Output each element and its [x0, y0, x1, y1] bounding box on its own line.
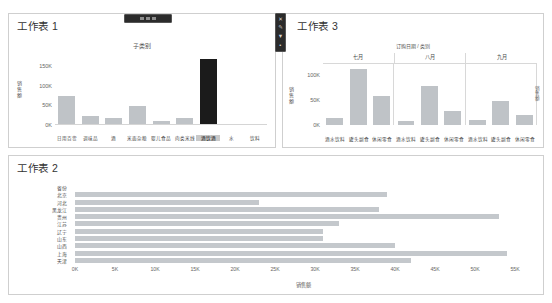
worksheet-1-x-label[interactable]: 米面杂粮	[126, 135, 150, 141]
worksheet-2-bar[interactable]	[75, 236, 323, 241]
worksheet-3-panel-header[interactable]: 七月	[323, 53, 395, 63]
worksheet-3-bar[interactable]	[398, 121, 415, 125]
worksheet-1-bar-slot[interactable]	[173, 56, 197, 125]
worksheet-3-bar[interactable]	[516, 115, 533, 125]
worksheet-3-bar-slot[interactable]	[370, 63, 393, 125]
worksheet-3-bar-slot[interactable]	[513, 63, 536, 125]
worksheet-1-x-label[interactable]: 肉类米线	[173, 135, 197, 141]
worksheet-2-bar[interactable]	[75, 192, 387, 197]
worksheet-2-bar[interactable]	[75, 221, 339, 226]
filter-icon[interactable]: ▼	[277, 33, 284, 40]
worksheet-2-bar[interactable]	[75, 251, 507, 256]
worksheet-2-bar[interactable]	[75, 214, 499, 219]
worksheet-2-category-label[interactable]: 黑龙江	[9, 206, 71, 213]
worksheet-2-bar-row[interactable]	[75, 213, 531, 220]
worksheet-3-panel-header[interactable]: 九月	[466, 53, 537, 63]
worksheet-1-x-label[interactable]: 调味品	[79, 135, 103, 141]
worksheet-3-x-label[interactable]: 酒水饮料	[466, 136, 490, 142]
worksheet-1-x-labels[interactable]: 日用百货调味品酒米面杂粮婴儿食品肉类米线酒饮酒水饮料	[55, 135, 267, 141]
worksheet-2-category-label[interactable]: 天津	[9, 257, 71, 264]
worksheet-1-bar-slot[interactable]	[126, 56, 150, 125]
worksheet-3-bar[interactable]	[469, 120, 486, 125]
worksheet-1-x-label[interactable]: 婴儿食品	[149, 135, 173, 141]
worksheet-1-bar-slot[interactable]	[79, 56, 103, 125]
worksheet-3-bar[interactable]	[421, 86, 438, 125]
worksheet-2-category-label[interactable]: 河北	[9, 199, 71, 206]
worksheet-1-x-label[interactable]: 饮料	[244, 135, 268, 141]
worksheet-3-plot[interactable]: 0K50K100K	[323, 63, 537, 125]
worksheet-3[interactable]: 工作表 3 订购日期 / 类别 销售额 七月八月九月 0K50K100K 酒水饮…	[282, 13, 544, 148]
worksheet-3-x-labels[interactable]: 酒水饮料罐头副食休闲零食酒水饮料罐头副食休闲零食酒水饮料罐头副食休闲零食	[323, 136, 537, 142]
worksheet-2-bar[interactable]	[75, 207, 379, 212]
worksheet-3-bar-slot[interactable]	[323, 63, 346, 125]
more-icon[interactable]: ▪	[277, 42, 284, 49]
worksheet-3-x-label[interactable]: 休闲零食	[442, 136, 466, 142]
worksheet-3-panel[interactable]	[323, 63, 394, 125]
worksheet-2-bar-row[interactable]	[75, 184, 531, 191]
worksheet-3-bar-slot[interactable]	[466, 63, 489, 125]
worksheet-3-bar-slot[interactable]	[394, 63, 417, 125]
worksheet-1-x-label[interactable]: 酒	[102, 135, 126, 141]
worksheet-2-category-label[interactable]: 贵州	[9, 213, 71, 220]
worksheet-2-category-label[interactable]: 江苏	[9, 220, 71, 227]
worksheet-2-plot[interactable]	[75, 184, 531, 264]
worksheet-2-bar-row[interactable]	[75, 257, 531, 264]
edit-icon[interactable]: ✎	[277, 25, 284, 32]
worksheet-2-bar-row[interactable]	[75, 199, 531, 206]
worksheet-3-x-label[interactable]: 罐头副食	[418, 136, 442, 142]
toolbar-handle-icon[interactable]	[146, 17, 150, 20]
worksheet-1-bar-slot[interactable]	[149, 56, 173, 125]
worksheet-1-bar[interactable]	[58, 96, 75, 125]
worksheet-3-bar-slot[interactable]	[441, 63, 464, 125]
worksheet-3-bar[interactable]	[326, 118, 343, 125]
worksheet-1-x-label[interactable]: 酒饮酒	[196, 135, 220, 141]
worksheet-2-bar[interactable]	[75, 229, 323, 234]
worksheet-3-panel-header[interactable]: 八月	[395, 53, 467, 63]
worksheet-2[interactable]: 工作表 2 省份北京河北黑龙江贵州江苏辽宁山东山西上海天津 0K5K10K15K…	[8, 155, 544, 295]
worksheet-1-plot[interactable]: 0K50K100K150K	[55, 56, 267, 125]
worksheet-2-bar[interactable]	[75, 200, 259, 205]
worksheet-2-bar-row[interactable]	[75, 191, 531, 198]
floating-toolbar-top[interactable]	[124, 14, 172, 23]
worksheet-3-bar-slot[interactable]	[489, 63, 512, 125]
worksheet-2-bar-row[interactable]	[75, 206, 531, 213]
worksheet-3-bar[interactable]	[373, 96, 390, 125]
floating-toolbar-right[interactable]: ✕✎▼▪	[275, 13, 286, 52]
worksheet-2-category-label[interactable]: 山西	[9, 242, 71, 249]
worksheet-3-x-label[interactable]: 罐头副食	[347, 136, 371, 142]
worksheet-2-category-label[interactable]: 山东	[9, 235, 71, 242]
worksheet-3-x-label[interactable]: 酒水饮料	[323, 136, 347, 142]
worksheet-2-bar-row[interactable]	[75, 228, 531, 235]
worksheet-3-x-label[interactable]: 酒水饮料	[394, 136, 418, 142]
worksheet-1-x-label[interactable]: 日用百货	[55, 135, 79, 141]
toolbar-handle-icon[interactable]	[140, 17, 144, 20]
worksheet-3-bar[interactable]	[492, 101, 509, 125]
worksheet-1-bar-slot[interactable]	[196, 56, 220, 125]
close-icon[interactable]: ✕	[277, 16, 284, 23]
worksheet-1-bar-slot[interactable]	[244, 56, 268, 125]
toolbar-handle-icon[interactable]	[152, 17, 156, 20]
worksheet-1-bars[interactable]	[55, 56, 267, 125]
worksheet-1-x-label[interactable]: 水	[220, 135, 244, 141]
worksheet-2-category-label[interactable]: 上海	[9, 249, 71, 256]
worksheet-2-category-label[interactable]: 北京	[9, 191, 71, 198]
worksheet-3-x-label[interactable]: 休闲零食	[513, 136, 537, 142]
worksheet-1-bar-slot[interactable]	[102, 56, 126, 125]
worksheet-3-bar-slot[interactable]	[346, 63, 369, 125]
worksheet-2-bar-row[interactable]	[75, 235, 531, 242]
worksheet-1[interactable]: 工作表 1 子类别 销售额 0K50K100K150K 日用百货调味品酒米面杂粮…	[8, 13, 276, 148]
worksheet-2-bar-row[interactable]	[75, 242, 531, 249]
worksheet-3-bar-slot[interactable]	[418, 63, 441, 125]
worksheet-3-bar[interactable]	[444, 111, 461, 125]
worksheet-2-bar-row[interactable]	[75, 220, 531, 227]
worksheet-2-bar[interactable]	[75, 258, 411, 263]
worksheet-2-bar-row[interactable]	[75, 249, 531, 256]
worksheet-1-bar[interactable]	[129, 106, 146, 125]
worksheet-1-bar-slot[interactable]	[55, 56, 79, 125]
worksheet-2-category-label[interactable]: 辽宁	[9, 228, 71, 235]
worksheet-3-bar[interactable]	[350, 69, 367, 125]
worksheet-2-category-label[interactable]: 省份	[9, 184, 71, 191]
worksheet-3-x-label[interactable]: 休闲零食	[371, 136, 395, 142]
worksheet-3-x-label[interactable]: 罐头副食	[489, 136, 513, 142]
worksheet-1-bar[interactable]	[200, 59, 217, 125]
